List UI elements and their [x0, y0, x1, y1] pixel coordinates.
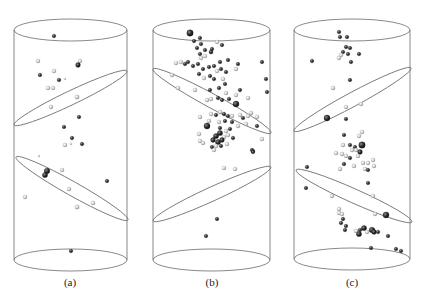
light-particle	[360, 130, 364, 134]
dark-particle	[341, 217, 345, 221]
light-particle	[209, 112, 213, 116]
light-particle	[344, 105, 348, 109]
dark-particle	[227, 97, 231, 101]
dark-particle	[366, 168, 370, 172]
light-particle	[341, 143, 345, 147]
dark-particle	[57, 78, 61, 82]
light-particle	[234, 93, 238, 97]
dark-particle	[260, 60, 264, 64]
light-particle	[38, 155, 40, 157]
tilted-section-ellipse-1	[11, 65, 130, 132]
light-particle	[207, 119, 211, 123]
light-particle	[179, 60, 183, 64]
panel-b	[150, 19, 275, 271]
dark-particle	[207, 65, 211, 69]
tilted-section-ellipse-2	[150, 161, 274, 228]
dark-particle	[348, 156, 352, 160]
dark-particle	[231, 136, 235, 140]
light-particle	[222, 166, 226, 170]
dark-particle	[197, 72, 201, 76]
dark-particle	[218, 126, 222, 130]
cylinder-particle-figure	[0, 0, 425, 301]
tilted-section-ellipse-2	[293, 164, 415, 229]
dark-particle	[77, 115, 81, 119]
dark-particle	[76, 63, 81, 68]
dark-particle	[241, 116, 245, 120]
light-particle	[75, 95, 79, 99]
tilted-section-ellipse-2	[13, 151, 132, 226]
dark-particle	[199, 42, 203, 46]
light-particle	[70, 143, 72, 145]
light-particle	[260, 137, 264, 141]
panel-a	[11, 19, 131, 271]
dark-particle	[342, 162, 346, 166]
dark-particle	[342, 133, 346, 137]
dark-particle	[211, 138, 216, 143]
light-particle	[233, 167, 237, 171]
light-particle	[218, 110, 222, 114]
dark-particle	[220, 98, 224, 102]
light-particle	[361, 161, 365, 165]
dark-particle	[338, 35, 342, 39]
dark-particle	[238, 88, 242, 92]
dark-particle	[38, 73, 42, 77]
light-particle	[249, 111, 253, 115]
light-particle	[371, 158, 375, 162]
light-particle	[78, 59, 82, 63]
dark-particle	[223, 82, 227, 86]
dark-particle	[265, 90, 269, 94]
dark-particle	[203, 48, 207, 52]
cylinder-bottom-ellipse	[153, 249, 270, 271]
light-particle	[201, 141, 205, 145]
dark-particle	[337, 30, 341, 34]
light-particle	[197, 132, 201, 136]
dark-particle	[218, 60, 222, 64]
light-particle	[352, 164, 356, 168]
dark-particle	[192, 39, 196, 43]
dark-particle	[305, 165, 309, 169]
light-particle	[365, 230, 369, 234]
dark-particle	[236, 62, 240, 66]
light-particle	[331, 86, 335, 90]
dark-particle	[348, 143, 352, 147]
dark-particle	[208, 88, 212, 92]
dark-particle	[366, 181, 370, 185]
light-particle	[234, 67, 238, 71]
dark-particle	[386, 234, 390, 238]
light-particle	[63, 143, 67, 147]
dark-particle	[226, 58, 230, 62]
light-particle	[60, 168, 64, 172]
dark-particle	[226, 114, 230, 118]
light-particle	[46, 86, 50, 90]
light-particle	[202, 76, 206, 80]
light-particle	[350, 148, 354, 152]
light-particle	[221, 77, 225, 81]
dark-particle	[198, 36, 202, 40]
dark-particle	[345, 35, 349, 39]
light-particle	[337, 207, 341, 211]
light-particle	[371, 194, 375, 198]
cylinder-top-ellipse	[294, 19, 410, 41]
light-particle	[373, 212, 377, 216]
panel-label-c: (c)	[337, 276, 367, 288]
light-particle	[215, 69, 219, 73]
light-particle	[356, 154, 360, 158]
light-particle	[225, 142, 229, 146]
light-particle	[52, 69, 56, 73]
light-particle	[75, 205, 79, 209]
dark-particle	[344, 117, 348, 121]
dark-particle	[187, 30, 193, 36]
dark-particle	[191, 64, 195, 68]
dark-particle	[264, 77, 268, 81]
dark-particle	[349, 60, 353, 64]
dark-particle	[186, 60, 190, 64]
dark-particle	[357, 52, 361, 56]
light-particle	[49, 105, 53, 109]
light-particle	[170, 73, 174, 77]
dark-particle	[372, 230, 377, 235]
dark-particle	[344, 224, 348, 228]
light-particle	[230, 114, 234, 118]
light-particle	[359, 102, 363, 106]
dark-particle	[52, 34, 56, 38]
light-particle	[67, 187, 71, 191]
